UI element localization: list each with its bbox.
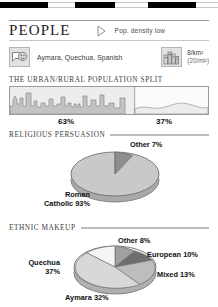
population-density: 8/km² (20/mi²) <box>161 47 209 67</box>
ethnic-label-european: European 10% <box>147 250 198 259</box>
section-heading-ethnic: ETHNIC MAKEUP <box>9 223 209 232</box>
urban-percent-label: 63% <box>58 117 74 126</box>
top-bar-segment <box>148 2 196 8</box>
page-header: PEOPLE Pop. density low <box>9 21 209 40</box>
ethnic-label-quechua: Quechua37% <box>8 258 60 276</box>
religion-heading-rule <box>110 134 209 136</box>
top-bar-segment <box>196 2 218 8</box>
religion-label-roman-catholic-text: RomanCatholic 93% <box>44 190 90 208</box>
density-values: 8/km² (20/mi²) <box>187 49 209 65</box>
top-bar-segment <box>48 2 75 8</box>
top-bar-segment <box>75 2 115 8</box>
urban-rural-panel <box>9 86 209 115</box>
urban-rural-heading: THE URBAN/RURAL POPULATION SPLIT <box>9 75 163 84</box>
density-imperial: (20/mi²) <box>187 57 209 65</box>
religion-label-other: Other 7% <box>130 140 162 149</box>
ethnic-label-quechua-text: Quechua37% <box>28 258 60 276</box>
play-triangle-icon <box>97 25 106 37</box>
pop-density-note: Pop. density low <box>115 27 166 34</box>
ethnic-label-aymara: Aymara 32% <box>65 293 109 302</box>
urban-rural-illustration <box>10 87 208 114</box>
top-bar-segment <box>115 2 148 8</box>
section-heading-urban-rural: THE URBAN/RURAL POPULATION SPLIT <box>9 75 209 84</box>
religion-heading: RELIGIOUS PERSUASION <box>9 130 105 139</box>
section-heading-religion: RELIGIOUS PERSUASION <box>9 130 209 139</box>
languages-label: Aymara, Quechua, Spanish <box>37 54 122 61</box>
ethnic-label-other: Other 8% <box>118 236 150 245</box>
ethnic-heading: ETHNIC MAKEUP <box>9 223 76 232</box>
ethnic-label-mixed: Mixed 13% <box>157 270 195 279</box>
ethnic-heading-rule <box>81 227 209 229</box>
header-rule-bottom <box>9 40 209 41</box>
density-metric: 8/km² <box>187 49 209 57</box>
top-bar-segment <box>0 2 48 8</box>
speech-face-icon <box>9 47 30 67</box>
page-title: PEOPLE <box>9 21 71 40</box>
city-buildings-icon <box>161 47 182 67</box>
rural-percent-label: 37% <box>156 117 172 126</box>
urban-rural-percent-labels: 63% 37% <box>9 117 209 127</box>
top-segmented-bar <box>0 2 218 8</box>
religion-label-roman-catholic: RomanCatholic 93% <box>18 190 90 208</box>
facts-row: Aymara, Quechua, Spanish 8/km² (20/mi²) <box>9 45 209 69</box>
